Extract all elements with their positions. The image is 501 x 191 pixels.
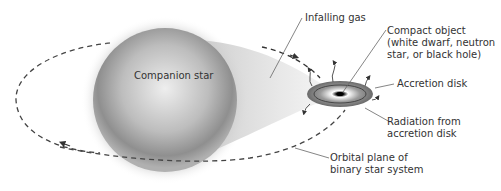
label-radiation: Radiation from accretion disk bbox=[387, 116, 461, 140]
label-orbital-plane: Orbital plane of binary star system bbox=[330, 152, 424, 176]
label-accretion-disk: Accretion disk bbox=[397, 78, 467, 90]
leader-accretion-disk bbox=[375, 84, 394, 88]
binary-star-diagram: Companion star Infalling gas Compact obj… bbox=[0, 0, 501, 191]
leader-orbital-plane bbox=[295, 148, 329, 158]
compact-object bbox=[337, 92, 344, 96]
companion-star bbox=[93, 28, 237, 172]
leader-compact-object bbox=[343, 30, 386, 92]
label-infalling-gas: Infalling gas bbox=[305, 12, 366, 24]
label-compact-object: Compact object (white dwarf, neutron sta… bbox=[387, 25, 495, 61]
label-companion-star: Companion star bbox=[134, 70, 213, 82]
